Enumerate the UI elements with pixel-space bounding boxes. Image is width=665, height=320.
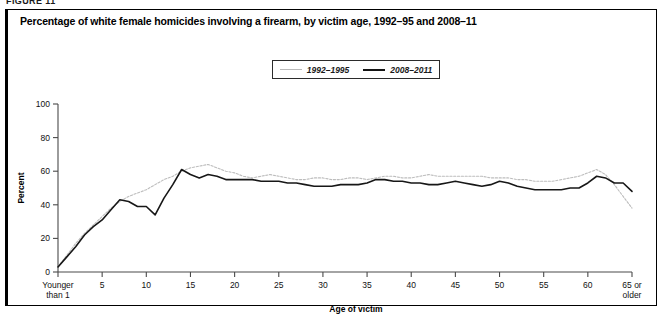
chart-legend: 1992–1995 2008–2011	[272, 60, 440, 79]
figure-number-label: FIGURE 11	[6, 0, 56, 5]
figure-title: Percentage of white female homicides inv…	[20, 15, 620, 27]
legend-item-2008-2011: 2008–2011	[363, 65, 432, 75]
legend-swatch-line-icon-2008-2011	[363, 69, 385, 71]
figure-root: FIGURE 11 Percentage of white female hom…	[0, 0, 665, 320]
figure-border-box	[5, 9, 657, 306]
legend-label-1992-1995: 1992–1995	[307, 65, 350, 75]
legend-swatch-line-icon-1992-1995	[280, 69, 302, 70]
legend-item-1992-1995: 1992–1995	[280, 65, 350, 75]
legend-label-2008-2011: 2008–2011	[390, 65, 432, 75]
